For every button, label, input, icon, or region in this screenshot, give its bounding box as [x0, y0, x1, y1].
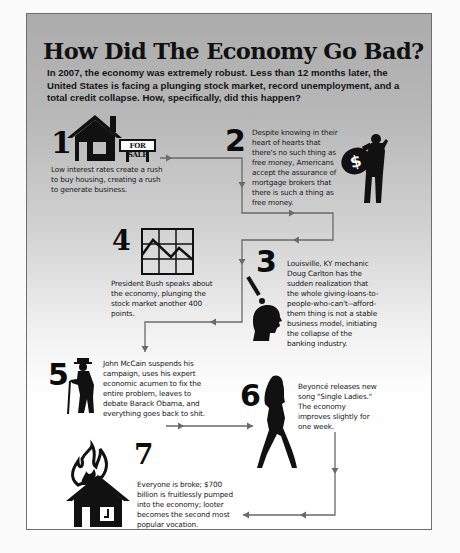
step-3-text: Louisville, KY mechanic Doug Carlton has… — [287, 259, 379, 349]
head-exclamation-icon — [245, 275, 285, 345]
man-with-money-bag-icon: $ — [339, 133, 389, 205]
step-6-text: Beyoncé releases new song "Single Ladies… — [298, 382, 380, 432]
old-man-with-cane-icon — [64, 357, 98, 415]
step-2-text: Despite knowing in their heart of hearts… — [252, 128, 340, 208]
step-7-text: Everyone is broke; $700 billion is fruit… — [137, 480, 242, 530]
step-1-text: Low interest rates create a rush to buy … — [51, 165, 163, 195]
step-4-number: 4 — [112, 227, 131, 254]
step-5-text: John McCain suspends his campaign, uses … — [103, 359, 205, 419]
step-3-number: 3 — [256, 247, 277, 277]
step-4-text: President Bush speaks about the economy,… — [111, 279, 226, 319]
house-for-sale-icon — [66, 112, 126, 162]
stock-chart-down-icon — [141, 228, 194, 275]
step-7-number: 7 — [134, 441, 153, 469]
woman-silhouette-icon — [255, 374, 300, 470]
burning-house-icon — [64, 445, 132, 527]
step-2-number: 2 — [225, 126, 246, 156]
sign-posts-icon — [124, 150, 152, 162]
